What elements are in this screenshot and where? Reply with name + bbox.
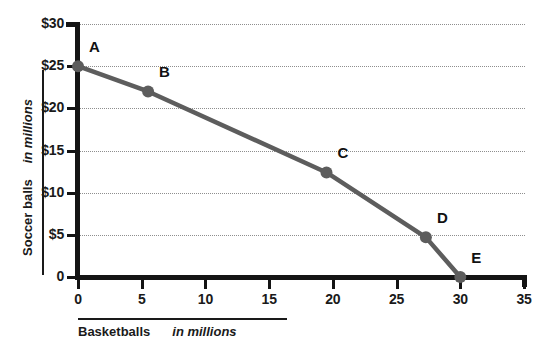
data-point-c (320, 166, 332, 178)
series-polyline (78, 66, 460, 277)
y-axis-title: Soccer ballsin millions (20, 68, 35, 288)
data-point-e (454, 271, 466, 283)
x-axis-title-text: Basketballs (78, 324, 150, 339)
point-label-a: A (89, 38, 100, 55)
point-label-c: C (337, 144, 348, 161)
y-axis-title-text: Soccer balls (20, 179, 35, 256)
x-axis-title-rule (78, 318, 287, 320)
y-axis-title-rule (42, 70, 44, 275)
line-chart: 0$5$10$15$20$25$30 05101520253035 ABCDE … (0, 0, 553, 355)
x-axis-title-unit: in millions (172, 324, 236, 339)
data-point-b (142, 85, 154, 97)
data-point-a (72, 60, 84, 72)
x-axis-title: Basketballsin millions (78, 324, 237, 339)
point-label-b: B (159, 63, 170, 80)
data-series-ppf (0, 0, 553, 355)
point-label-e: E (471, 249, 481, 266)
series-markers (72, 60, 466, 283)
data-point-d (420, 231, 432, 243)
y-axis-title-unit: in millions (20, 99, 35, 163)
point-label-d: D (437, 209, 448, 226)
